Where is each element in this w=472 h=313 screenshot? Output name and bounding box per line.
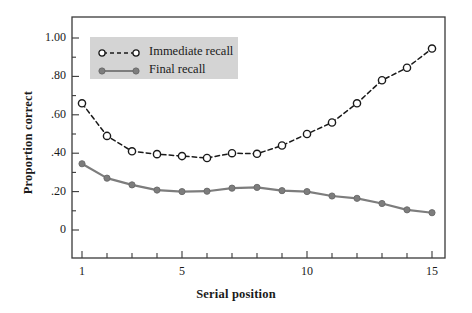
data-point xyxy=(429,210,435,216)
data-point xyxy=(103,132,110,139)
data-point xyxy=(228,150,235,157)
y-tick-label: 0 xyxy=(18,222,66,237)
legend-entry-final-recall: Final recall xyxy=(97,60,206,78)
data-point xyxy=(329,193,335,199)
data-point xyxy=(78,100,85,107)
legend-label-immediate-recall: Immediate recall xyxy=(149,44,233,59)
data-point xyxy=(428,45,435,52)
data-point xyxy=(404,207,410,213)
data-point xyxy=(304,189,310,195)
data-point xyxy=(354,195,360,201)
y-tick-label: .20 xyxy=(18,184,66,199)
data-point xyxy=(278,142,285,149)
dashed-open-circle-line-icon xyxy=(97,45,141,57)
legend-entry-immediate-recall: Immediate recall xyxy=(97,42,233,60)
x-tick-label: 1 xyxy=(62,264,102,279)
y-tick-label: 1.00 xyxy=(18,30,66,45)
serial-position-chart: Proportion correct Serial position Immed… xyxy=(0,0,472,313)
data-point xyxy=(353,100,360,107)
data-point xyxy=(79,161,85,167)
data-point xyxy=(303,130,310,137)
x-axis-title: Serial position xyxy=(0,287,472,302)
y-tick-label: .80 xyxy=(18,68,66,83)
data-point xyxy=(153,151,160,158)
data-point xyxy=(403,64,410,71)
x-tick-label: 10 xyxy=(287,264,327,279)
data-point xyxy=(379,200,385,206)
x-tick-label: 15 xyxy=(412,264,452,279)
y-tick-label: .60 xyxy=(18,107,66,122)
data-point xyxy=(204,188,210,194)
data-point xyxy=(253,150,260,157)
legend-label-final-recall: Final recall xyxy=(149,62,206,77)
data-point xyxy=(178,152,185,159)
data-point xyxy=(129,182,135,188)
data-point xyxy=(378,77,385,84)
y-tick-label: .40 xyxy=(18,145,66,160)
data-point xyxy=(254,184,260,190)
data-point xyxy=(229,185,235,191)
data-point xyxy=(279,188,285,194)
solid-filled-circle-line-icon xyxy=(97,63,141,75)
data-point xyxy=(328,119,335,126)
data-point xyxy=(128,148,135,155)
data-point xyxy=(203,154,210,161)
x-tick-label: 5 xyxy=(162,264,202,279)
data-point xyxy=(104,175,110,181)
data-point xyxy=(154,187,160,193)
data-point xyxy=(179,189,185,195)
